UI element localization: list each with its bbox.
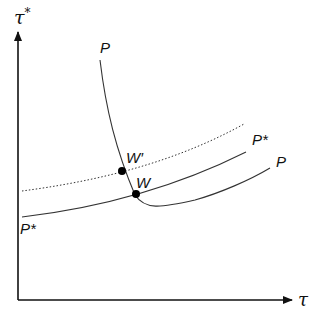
pstar-right-label: P* (252, 131, 269, 148)
point-w-prime (118, 167, 126, 175)
x-axis-label: τ (298, 289, 309, 310)
diagram-canvas: τ* τ P P P* P* W W′ (0, 0, 314, 321)
pstar-left-label: P* (20, 220, 37, 237)
diagram-svg: τ* τ P P P* P* W W′ (0, 0, 314, 321)
p-right-label: P (276, 153, 286, 170)
p-curve (100, 60, 270, 206)
y-axis-label: τ* (14, 6, 31, 28)
p-top-label: P (100, 39, 110, 56)
point-w (132, 190, 140, 198)
w-label: W (136, 174, 152, 191)
w-prime-label: W′ (126, 149, 144, 166)
